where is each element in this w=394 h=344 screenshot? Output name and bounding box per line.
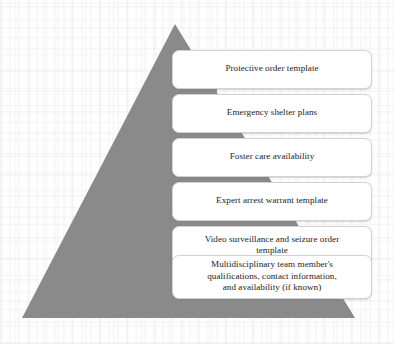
- pyramid-level-label-1: Protective order template: [180, 63, 364, 74]
- pyramid-level-label-4: Expert arrest warrant template: [180, 195, 364, 206]
- pyramid-level-list: Protective order templateEmergency shelt…: [0, 0, 394, 344]
- pyramid-level-label-6: Multidisciplinary team member's qualific…: [180, 259, 364, 293]
- pyramid-diagram: Protective order templateEmergency shelt…: [0, 0, 394, 344]
- pyramid-level-box-2[interactable]: Emergency shelter plans: [172, 94, 372, 133]
- pyramid-level-box-3[interactable]: Foster care availability: [172, 138, 372, 177]
- pyramid-level-label-2: Emergency shelter plans: [180, 107, 364, 118]
- pyramid-level-label-3: Foster care availability: [180, 151, 364, 162]
- pyramid-level-box-6[interactable]: Multidisciplinary team member's qualific…: [172, 255, 372, 299]
- pyramid-level-box-1[interactable]: Protective order template: [172, 50, 372, 89]
- pyramid-level-label-5: Video surveillance and seizure order tem…: [180, 234, 364, 257]
- pyramid-level-box-4[interactable]: Expert arrest warrant template: [172, 182, 372, 221]
